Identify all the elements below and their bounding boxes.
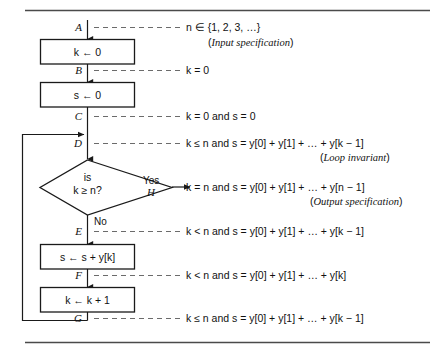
process-box-s-init-label: s ← 0 bbox=[74, 89, 102, 101]
cutpoint-label-e: E bbox=[74, 225, 82, 237]
cutpoint-label-b: B bbox=[75, 64, 82, 76]
cutpoint-label-g: G bbox=[74, 312, 82, 324]
cutpoint-label-a: A bbox=[74, 21, 82, 33]
assertion-a-note-italic: Input specification bbox=[211, 37, 290, 48]
decision-no-label: No bbox=[94, 216, 107, 227]
assertion-d: k ≤ n and s = y[0] + y[1] + … + y[k − 1] bbox=[186, 137, 364, 149]
assertion-h: k = n and s = y[0] + y[1] + … + y[n − 1] bbox=[186, 181, 365, 193]
flowchart-figure: k ← 0 s ← 0 s ← s + y[k] k ← k + 1 is k … bbox=[0, 0, 448, 352]
cutpoint-label-d: D bbox=[73, 137, 82, 149]
assertion-c: k = 0 and s = 0 bbox=[186, 110, 256, 122]
decision-label-line1: is bbox=[84, 171, 92, 183]
assertion-a-note: (Input specification) bbox=[208, 36, 293, 48]
assertion-d-note-italic: Loop invariant bbox=[323, 152, 388, 163]
assertion-h-note: (Output specification) bbox=[310, 195, 402, 207]
assertion-a: n ∈ {1, 2, 3, …} bbox=[186, 21, 261, 33]
assertion-h-note-italic: Output specification bbox=[314, 196, 399, 207]
decision-yes-label: Yes bbox=[143, 175, 159, 186]
assertion-f: k < n and s = y[0] + y[1] + … + y[k] bbox=[186, 269, 346, 281]
process-box-k-incr-label: k ← k + 1 bbox=[65, 294, 110, 306]
assertion-d-note: (Loop invariant) bbox=[320, 151, 390, 163]
assertion-e: k < n and s = y[0] + y[1] + … + y[k − 1] bbox=[186, 225, 364, 237]
assertion-g: k ≤ n and s = y[0] + y[1] + … + y[k − 1] bbox=[186, 312, 364, 324]
cutpoint-label-f: F bbox=[74, 269, 82, 281]
assertion-b: k = 0 bbox=[186, 64, 209, 76]
cutpoint-label-h: H bbox=[146, 186, 156, 198]
process-box-k-init-label: k ← 0 bbox=[74, 46, 102, 58]
decision-label-line2: k ≥ n? bbox=[73, 184, 102, 196]
process-box-s-accum-label: s ← s + y[k] bbox=[60, 251, 115, 263]
cutpoint-label-c: C bbox=[75, 110, 83, 122]
